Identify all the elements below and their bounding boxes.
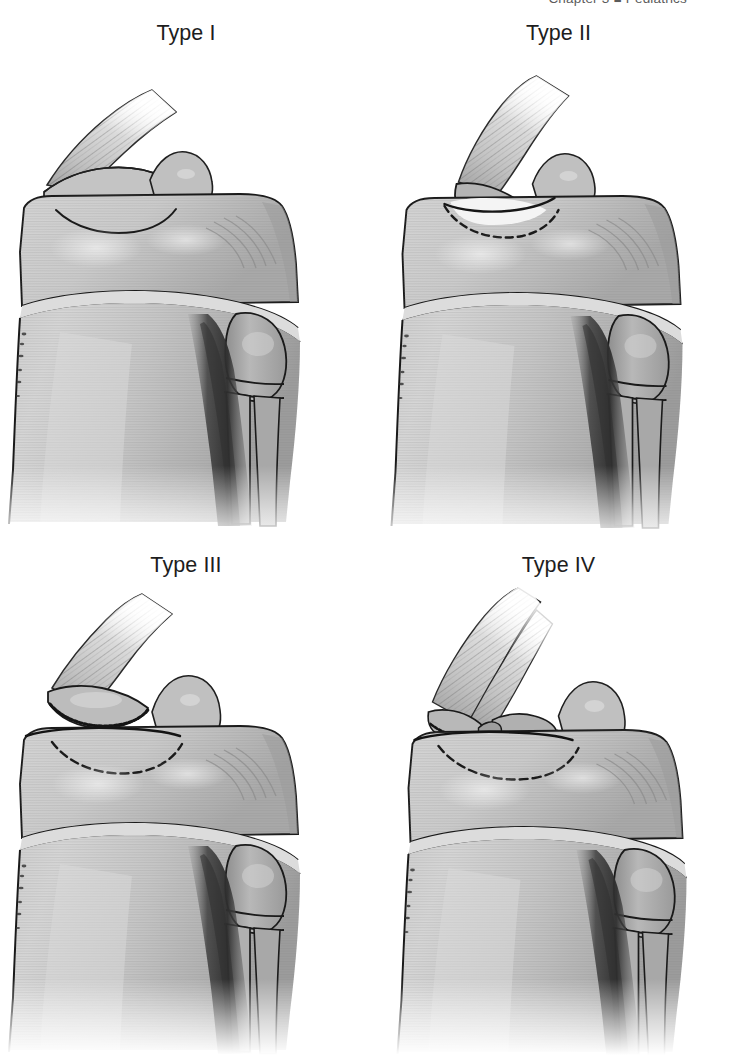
figure-panel-type-4: Type IV xyxy=(372,548,745,1055)
illustration-type-4 xyxy=(372,584,745,1055)
proximal-tibial-epiphysis xyxy=(409,730,683,842)
illustration-type-1 xyxy=(0,52,372,548)
panel-label-type-3: Type III xyxy=(0,553,372,578)
illustration-type-3 xyxy=(0,584,372,1055)
bottom-fade xyxy=(0,874,372,1055)
panel-label-type-4: Type IV xyxy=(372,553,745,578)
bottom-fade xyxy=(373,874,745,1055)
illustration-type-2 xyxy=(372,52,745,548)
panel-label-type-2: Type II xyxy=(372,21,745,46)
bottom-fade xyxy=(0,352,372,548)
figure-panel-type-3: Type III xyxy=(0,548,372,1055)
proximal-tibial-epiphysis xyxy=(20,726,298,838)
proximal-tibial-epiphysis xyxy=(20,194,298,306)
panel-label-type-1: Type I xyxy=(0,21,372,46)
running-header: Chapter 3 ■ Pediatrics xyxy=(0,0,745,7)
figure-page: Chapter 3 ■ Pediatrics xyxy=(0,0,745,1055)
tibial-tubercle-fragment xyxy=(48,686,148,728)
figure-panel-type-1: Type I xyxy=(0,18,372,548)
bottom-fade xyxy=(373,352,745,548)
proximal-tibial-epiphysis xyxy=(403,196,681,308)
figure-panel-type-2: Type II xyxy=(372,18,745,548)
